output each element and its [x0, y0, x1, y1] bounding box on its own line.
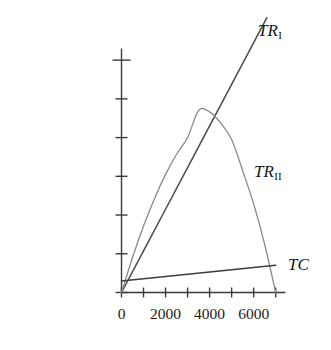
series-label-tr-ii-subscript: II — [274, 170, 282, 182]
x-axis-tick-label: 6000 — [224, 306, 284, 322]
series-label-tc-text: TC — [288, 255, 309, 274]
series-label-tr-ii-text: TR — [254, 162, 274, 181]
chart-figure: 02 000 0004 000 0006 000 0008 000 00010 … — [0, 0, 331, 350]
series-label-tr-i: TRI — [258, 22, 282, 39]
series-label-tc: TC — [288, 256, 309, 273]
series-label-tr-i-subscript: I — [278, 29, 282, 41]
series-label-tr-i-text: TR — [258, 21, 278, 40]
series-label-tr-ii: TRII — [254, 163, 282, 180]
